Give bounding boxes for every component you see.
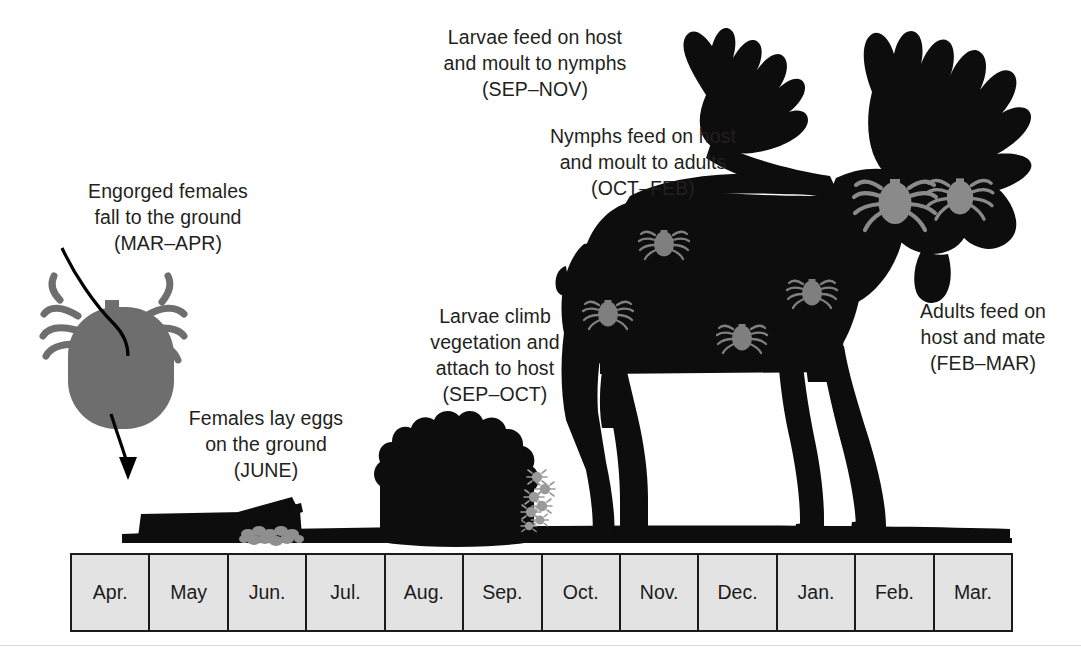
- caption-larvae-feed-on-host: Larvae feed on host and moult to nymphs …: [404, 24, 666, 102]
- month-cell: Jan.: [778, 555, 856, 630]
- month-cell: May: [150, 555, 228, 630]
- month-label: Aug.: [404, 581, 444, 604]
- caption-engorged-females-fall: Engorged females fall to the ground (MAR…: [48, 178, 288, 256]
- month-label: May: [170, 581, 207, 604]
- month-label: Jun.: [249, 581, 286, 604]
- month-label: Jul.: [330, 581, 360, 604]
- caption-nymphs-feed-on-host: Nymphs feed on host and moult to adults …: [514, 123, 772, 201]
- month-cell: Nov.: [621, 555, 699, 630]
- month-label: Jan.: [798, 581, 835, 604]
- month-cell: Dec.: [699, 555, 777, 630]
- month-cell: Oct.: [543, 555, 621, 630]
- caption-females-lay-eggs: Females lay eggs on the ground (JUNE): [176, 405, 356, 483]
- month-label: Dec.: [718, 581, 758, 604]
- engorged-tick: [43, 276, 184, 429]
- month-label: Feb.: [875, 581, 914, 604]
- month-label: Mar.: [954, 581, 992, 604]
- caption-adults-feed-and-mate: Adults feed on host and mate (FEB–MAR): [892, 298, 1074, 376]
- month-label: Oct.: [563, 581, 599, 604]
- month-cell: Mar.: [935, 555, 1011, 630]
- month-cell: Sep.: [464, 555, 542, 630]
- caption-larvae-climb-vegetation: Larvae climb vegetation and attach to ho…: [404, 303, 586, 408]
- tick-life-cycle-figure: Larvae feed on host and moult to nymphs …: [0, 0, 1081, 660]
- month-cell: Jul.: [307, 555, 385, 630]
- vegetation-bush: [374, 411, 539, 547]
- month-cell: Aug.: [386, 555, 464, 630]
- moose-silhouette: [555, 28, 1031, 540]
- month-label: Nov.: [640, 581, 679, 604]
- month-label: Sep.: [482, 581, 522, 604]
- month-cell: Apr.: [72, 555, 150, 630]
- month-label: Apr.: [93, 581, 128, 604]
- bottom-rule: [0, 645, 1081, 646]
- month-cell: Jun.: [229, 555, 307, 630]
- month-timeline: Apr.MayJun.Jul.Aug.Sep.Oct.Nov.Dec.Jan.F…: [70, 553, 1013, 632]
- month-cell: Feb.: [856, 555, 934, 630]
